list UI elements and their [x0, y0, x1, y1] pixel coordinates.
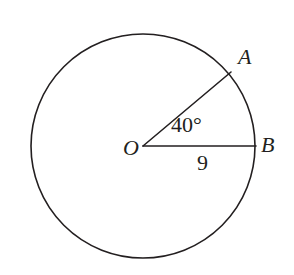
center-label-o: O — [123, 137, 139, 159]
point-label-b: B — [261, 134, 274, 156]
point-label-a: A — [238, 46, 251, 68]
geometry-figure: A B O 40° 9 — [0, 0, 294, 275]
circle-diagram-svg — [0, 0, 294, 275]
angle-measure-label: 40° — [171, 114, 202, 136]
radius-length-label: 9 — [197, 152, 208, 174]
